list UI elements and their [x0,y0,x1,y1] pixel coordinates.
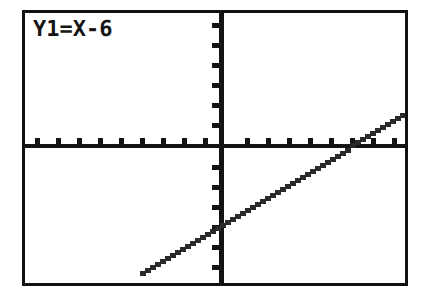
x-axis [25,138,405,146]
graph-plot-area[interactable]: Y1=X-6 [25,13,405,283]
graph-canvas [25,13,405,283]
y-axis [212,13,222,283]
calculator-screen-frame: Y1=X-6 [22,10,408,286]
equation-label: Y1=X-6 [33,19,112,41]
plotted-line-y1 [140,113,405,276]
calculator-screenshot: Y1=X-6 [0,0,431,297]
